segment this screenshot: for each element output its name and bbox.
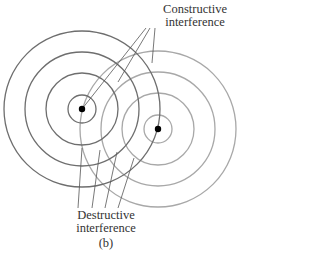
figure-caption: (b) <box>90 237 122 250</box>
leader-line <box>152 28 155 63</box>
source-2-dot <box>155 126 161 132</box>
leader-line <box>78 148 82 208</box>
destructive-leaders <box>78 148 134 208</box>
constructive-interference-label: Constructive interference <box>150 3 239 29</box>
destructive-interference-label: Destructive interference <box>66 209 146 235</box>
source-1-dot <box>79 106 85 112</box>
constructive-label-line2: interference <box>150 16 239 29</box>
destructive-label-line2: interference <box>66 222 146 235</box>
leader-line <box>82 28 146 109</box>
